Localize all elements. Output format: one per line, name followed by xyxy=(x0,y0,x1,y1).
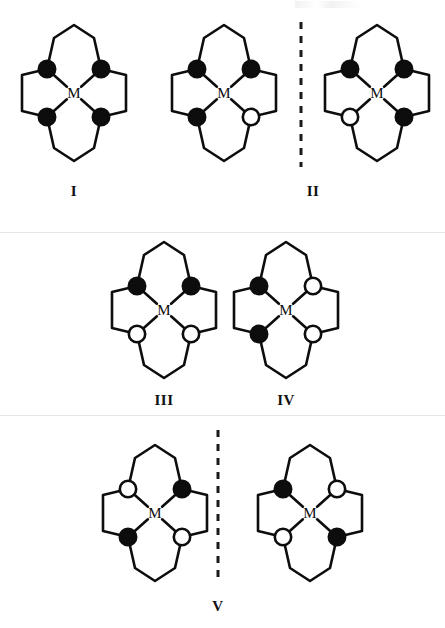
donor-top-right-filled xyxy=(174,481,190,497)
donor-bottom-left-filled xyxy=(120,529,136,545)
donor-top-left-filled xyxy=(251,278,267,294)
metal-center-label: M xyxy=(67,85,80,101)
structure-IV: M xyxy=(234,242,338,378)
coordination-bond-top-left xyxy=(204,75,217,87)
backbone-bottom xyxy=(350,117,404,161)
backbone-bottom xyxy=(47,117,101,161)
backbone-top xyxy=(128,445,182,489)
backbone-bottom xyxy=(137,334,191,378)
coordination-bond-bottom-right xyxy=(171,316,184,328)
coordination-bond-bottom-left xyxy=(357,99,370,111)
donor-top-left-filled xyxy=(275,481,291,497)
coordination-bond-bottom-right xyxy=(231,99,244,111)
backbone-bottom xyxy=(283,537,337,581)
backbone-top xyxy=(197,25,251,69)
macrocycle-figure: MMMMMMM xyxy=(0,0,445,628)
coordination-bond-bottom-left xyxy=(54,99,67,111)
donor-top-right-filled xyxy=(396,61,412,77)
coordination-bond-top-right xyxy=(231,75,244,87)
coordination-bond-top-left xyxy=(135,495,148,507)
donor-bottom-right-open xyxy=(183,326,199,342)
label-II: II xyxy=(307,183,320,200)
structure-II-left: M xyxy=(172,25,276,161)
metal-center-label: M xyxy=(157,302,170,318)
backbone-bottom xyxy=(128,537,182,581)
coordination-bond-top-left xyxy=(54,75,67,87)
coordination-bond-bottom-right xyxy=(81,99,94,111)
donor-bottom-left-filled xyxy=(189,109,205,125)
donor-top-left-filled xyxy=(342,61,358,77)
coordination-bond-bottom-right xyxy=(293,316,306,328)
metal-center-label: M xyxy=(217,85,230,101)
donor-bottom-right-filled xyxy=(93,109,109,125)
donor-top-left-filled xyxy=(129,278,145,294)
donor-bottom-left-filled xyxy=(251,326,267,342)
donor-top-right-open xyxy=(329,481,345,497)
label-I: I xyxy=(71,183,77,200)
donor-bottom-right-open xyxy=(305,326,321,342)
donor-bottom-left-open xyxy=(342,109,358,125)
donor-top-left-filled xyxy=(39,61,55,77)
donor-bottom-right-filled xyxy=(396,109,412,125)
donor-bottom-left-open xyxy=(129,326,145,342)
coordination-bond-bottom-left xyxy=(266,316,279,328)
donor-bottom-right-filled xyxy=(329,529,345,545)
label-IV: IV xyxy=(277,392,295,409)
coordination-bond-top-right xyxy=(317,495,330,507)
backbone-top xyxy=(259,242,313,286)
structure-II-right: M xyxy=(325,25,429,161)
donor-top-right-open xyxy=(305,278,321,294)
donor-top-right-filled xyxy=(243,61,259,77)
coordination-bond-top-right xyxy=(81,75,94,87)
label-V: V xyxy=(212,598,223,615)
backbone-bottom xyxy=(259,334,313,378)
donor-top-left-open xyxy=(120,481,136,497)
donor-top-right-filled xyxy=(93,61,109,77)
donor-bottom-left-open xyxy=(275,529,291,545)
coordination-bond-bottom-right xyxy=(317,519,330,531)
donor-bottom-left-filled xyxy=(39,109,55,125)
coordination-bond-bottom-left xyxy=(144,316,157,328)
donor-top-left-filled xyxy=(189,61,205,77)
donor-bottom-right-open xyxy=(174,529,190,545)
coordination-bond-top-left xyxy=(357,75,370,87)
metal-center-label: M xyxy=(370,85,383,101)
backbone-top xyxy=(350,25,404,69)
metal-center-label: M xyxy=(279,302,292,318)
coordination-bond-top-right xyxy=(384,75,397,87)
coordination-bond-bottom-left xyxy=(290,519,303,531)
coordination-bond-top-right xyxy=(162,495,175,507)
label-III: III xyxy=(154,392,173,409)
coordination-bond-top-left xyxy=(290,495,303,507)
donor-top-right-filled xyxy=(183,278,199,294)
metal-center-label: M xyxy=(148,505,161,521)
backbone-top xyxy=(137,242,191,286)
coordination-bond-bottom-left xyxy=(204,99,217,111)
coordination-bond-bottom-left xyxy=(135,519,148,531)
structure-III: M xyxy=(112,242,216,378)
coordination-bond-top-right xyxy=(293,292,306,304)
coordination-bond-top-right xyxy=(171,292,184,304)
donor-bottom-right-open xyxy=(243,109,259,125)
structure-V-left: M xyxy=(103,445,207,581)
coordination-bond-top-left xyxy=(266,292,279,304)
backbone-bottom xyxy=(197,117,251,161)
coordination-bond-bottom-right xyxy=(162,519,175,531)
backbone-top xyxy=(283,445,337,489)
structure-V-right: M xyxy=(258,445,362,581)
coordination-bond-bottom-right xyxy=(384,99,397,111)
backbone-top xyxy=(47,25,101,69)
coordination-bond-top-left xyxy=(144,292,157,304)
structure-I: M xyxy=(22,25,126,161)
metal-center-label: M xyxy=(303,505,316,521)
